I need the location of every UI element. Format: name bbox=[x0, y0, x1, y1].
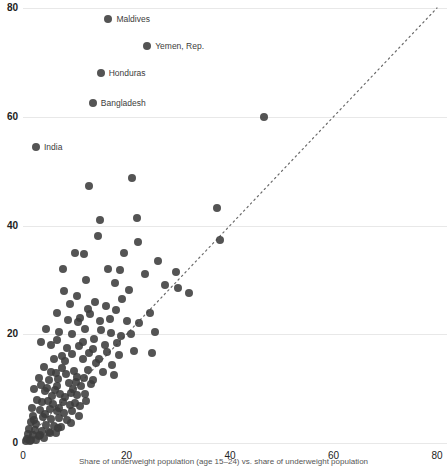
gridline-y-80 bbox=[23, 8, 447, 9]
data-point bbox=[81, 325, 89, 333]
data-point bbox=[174, 284, 182, 292]
point-label-honduras: Honduras bbox=[109, 69, 146, 78]
data-point bbox=[154, 257, 162, 265]
data-point bbox=[55, 414, 63, 422]
data-point bbox=[104, 265, 112, 273]
data-point bbox=[42, 325, 50, 333]
data-point bbox=[60, 287, 68, 295]
data-point bbox=[135, 319, 143, 327]
data-point bbox=[104, 15, 112, 23]
data-point bbox=[79, 338, 87, 346]
data-point bbox=[75, 412, 83, 420]
data-point bbox=[141, 270, 149, 278]
data-point bbox=[115, 351, 123, 359]
data-point bbox=[80, 374, 88, 382]
data-point bbox=[94, 232, 102, 240]
data-point bbox=[172, 268, 180, 276]
data-point bbox=[113, 339, 121, 347]
point-label-yemen-rep: Yemen, Rep. bbox=[155, 42, 204, 51]
data-point bbox=[82, 276, 90, 284]
y-tick-label-40: 40 bbox=[0, 221, 18, 231]
chart-caption: Share of underweight population (age 15–… bbox=[0, 457, 447, 467]
data-point bbox=[90, 335, 98, 343]
data-point bbox=[37, 338, 45, 346]
data-point bbox=[116, 266, 124, 274]
data-point bbox=[80, 250, 88, 258]
data-point bbox=[112, 306, 120, 314]
data-point bbox=[48, 392, 56, 400]
data-point bbox=[53, 309, 61, 317]
data-point bbox=[73, 292, 81, 300]
data-point bbox=[85, 349, 93, 357]
data-point bbox=[64, 316, 72, 324]
data-point bbox=[55, 328, 63, 336]
point-label-bangladesh: Bangladesh bbox=[101, 99, 146, 108]
data-point bbox=[89, 376, 97, 384]
data-point bbox=[97, 326, 105, 334]
data-point bbox=[41, 410, 49, 418]
data-point bbox=[213, 204, 221, 212]
data-point bbox=[161, 281, 169, 289]
data-point bbox=[67, 419, 75, 427]
data-point bbox=[89, 99, 97, 107]
data-point bbox=[148, 349, 156, 357]
data-point bbox=[97, 69, 105, 77]
y-tick-label-20: 20 bbox=[0, 329, 18, 339]
data-point bbox=[36, 431, 44, 439]
data-point bbox=[99, 368, 107, 376]
data-point bbox=[107, 329, 115, 337]
data-point bbox=[151, 328, 159, 336]
data-point bbox=[54, 424, 62, 432]
data-point bbox=[96, 317, 104, 325]
data-point bbox=[69, 385, 77, 393]
data-point bbox=[185, 289, 193, 297]
data-point bbox=[50, 355, 58, 363]
data-point bbox=[32, 143, 40, 151]
data-point bbox=[66, 300, 74, 308]
data-point bbox=[110, 371, 118, 379]
data-point bbox=[125, 286, 133, 294]
gridline-y-20 bbox=[23, 334, 447, 335]
data-point bbox=[71, 249, 79, 257]
data-point bbox=[62, 370, 70, 378]
data-point bbox=[38, 398, 46, 406]
data-point bbox=[68, 330, 76, 338]
data-point bbox=[106, 315, 114, 323]
data-point bbox=[118, 295, 126, 303]
data-point bbox=[128, 174, 136, 182]
data-point bbox=[85, 182, 93, 190]
y-tick-label-80: 80 bbox=[0, 3, 18, 13]
data-point bbox=[26, 437, 34, 445]
gridline-y-40 bbox=[23, 226, 447, 227]
data-point bbox=[96, 216, 104, 224]
gridline-y-60 bbox=[23, 117, 447, 118]
data-point bbox=[43, 384, 51, 392]
data-point bbox=[260, 113, 268, 121]
data-point bbox=[91, 298, 99, 306]
gridline-y-0 bbox=[23, 443, 447, 444]
data-point bbox=[77, 382, 85, 390]
data-point bbox=[133, 214, 141, 222]
data-point bbox=[101, 341, 109, 349]
data-point bbox=[127, 330, 135, 338]
point-label-maldives: Maldives bbox=[116, 15, 150, 24]
data-point bbox=[130, 347, 138, 355]
point-label-india: India bbox=[44, 142, 62, 151]
data-point bbox=[102, 302, 110, 310]
data-point bbox=[59, 265, 67, 273]
y-tick-label-60: 60 bbox=[0, 112, 18, 122]
data-point bbox=[53, 336, 61, 344]
data-point bbox=[82, 397, 90, 405]
data-point bbox=[84, 366, 92, 374]
data-point bbox=[123, 317, 131, 325]
data-point bbox=[120, 249, 128, 257]
data-point bbox=[68, 350, 76, 358]
y-tick-label-0: 0 bbox=[0, 438, 18, 448]
data-point bbox=[74, 318, 82, 326]
data-point bbox=[146, 309, 154, 317]
data-point bbox=[95, 355, 103, 363]
data-point bbox=[111, 279, 119, 287]
data-point bbox=[143, 42, 151, 50]
